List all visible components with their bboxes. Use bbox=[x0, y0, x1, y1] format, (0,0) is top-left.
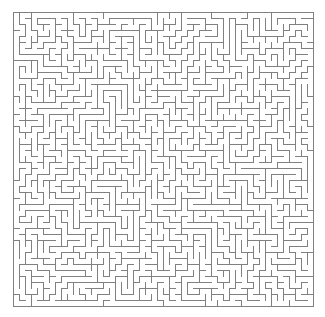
maze-figure bbox=[0, 0, 325, 317]
maze-canvas bbox=[0, 0, 325, 317]
